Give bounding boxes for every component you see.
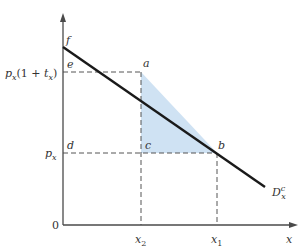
x-axis-label: x <box>286 233 293 246</box>
demand-curve-label: Dcx <box>271 184 286 201</box>
point-label-b: b <box>218 139 225 152</box>
d-subscript: x <box>281 192 286 201</box>
p-subscript: x <box>52 153 57 162</box>
x-subscript: 1 <box>217 239 222 248</box>
d-symbol: D <box>271 186 281 199</box>
deadweight-loss-triangle <box>141 72 217 153</box>
x-subscript: 2 <box>141 239 146 248</box>
p-symbol: p <box>5 67 12 80</box>
open-paren: (1 + <box>17 67 45 80</box>
close-paren: ) <box>53 67 57 80</box>
point-label-d: d <box>67 139 74 152</box>
demand-diagram: f e a d c b px(1 + tx) px 0 x2 x1 x Dcx <box>0 0 304 251</box>
point-label-a: a <box>143 57 150 70</box>
y-tick-low-price: px <box>45 147 57 162</box>
y-tick-high-price: px(1 + tx) <box>5 67 57 82</box>
origin-label: 0 <box>52 219 59 232</box>
point-label-f: f <box>65 34 72 47</box>
point-label-c: c <box>145 139 151 152</box>
x-tick-x1: x1 <box>211 233 222 248</box>
x-axis-arrow-icon <box>289 222 298 228</box>
y-axis-arrow-icon <box>60 13 66 22</box>
point-label-e: e <box>67 58 74 71</box>
x-tick-x2: x2 <box>135 233 146 248</box>
demand-curve <box>63 47 265 187</box>
p-symbol: p <box>45 147 52 160</box>
